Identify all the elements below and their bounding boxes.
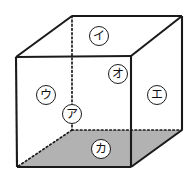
- edge-front-left-vertical: [16, 57, 17, 167]
- face-label-a: ア: [62, 104, 82, 124]
- face-label-o: オ: [108, 64, 128, 84]
- cube-figure: イ オ ウ ア エ カ: [0, 0, 196, 181]
- face-label-e: エ: [147, 85, 167, 105]
- edge-front-top: [16, 56, 131, 57]
- face-label-i: イ: [89, 26, 109, 46]
- face-label-u: ウ: [36, 85, 56, 105]
- face-label-ka: カ: [91, 139, 111, 159]
- edge-top-right-diagonal: [131, 16, 182, 56]
- edge-top-left-diagonal: [16, 16, 72, 57]
